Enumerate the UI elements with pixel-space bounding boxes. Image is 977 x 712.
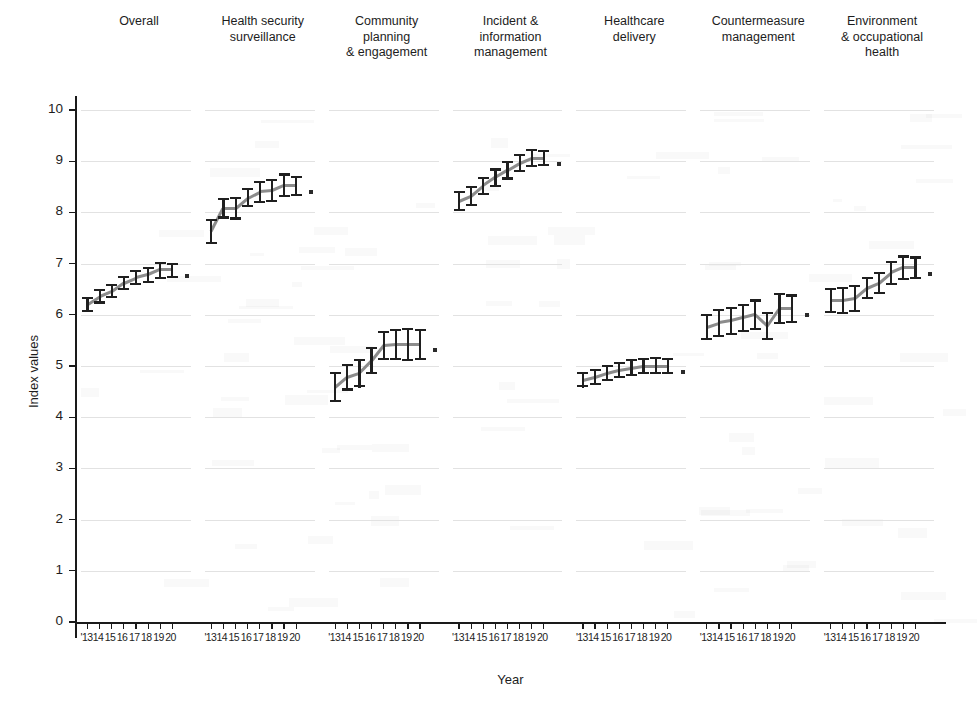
panel-title-incident-information-management: Incident & information management bbox=[443, 14, 579, 61]
error-bar-cap-top bbox=[774, 293, 785, 295]
series-end-marker bbox=[309, 190, 313, 194]
x-tick-label: 15 bbox=[229, 631, 239, 643]
x-tick-label: 16 bbox=[365, 631, 375, 643]
x-tick-mark bbox=[619, 622, 620, 629]
error-bar-cap-top bbox=[218, 198, 229, 200]
x-tick-label: 20 bbox=[537, 631, 547, 643]
error-bar-cap-bottom bbox=[354, 385, 365, 387]
error-bar bbox=[395, 329, 397, 360]
gridline bbox=[576, 571, 686, 572]
x-tick-mark bbox=[507, 622, 508, 629]
error-bar-cap-top bbox=[825, 288, 836, 290]
error-bar-cap-top bbox=[230, 197, 241, 199]
error-bar-cap-bottom bbox=[786, 321, 797, 323]
error-bar bbox=[842, 287, 844, 314]
gridline bbox=[453, 520, 563, 521]
error-bar bbox=[407, 328, 409, 361]
gridline bbox=[453, 417, 563, 418]
error-bar-cap-top bbox=[402, 328, 413, 330]
y-tick-label: 6 bbox=[39, 306, 63, 321]
y-tick-mark bbox=[69, 212, 77, 213]
error-bar-cap-bottom bbox=[266, 200, 277, 202]
x-tick-label: 17 bbox=[501, 631, 511, 643]
paper-artifact bbox=[250, 253, 264, 256]
error-bar-cap-top bbox=[266, 179, 277, 181]
error-bar-cap-top bbox=[82, 297, 93, 299]
y-tick-mark bbox=[69, 570, 77, 571]
y-tick-mark bbox=[69, 161, 77, 162]
paper-artifact bbox=[345, 248, 377, 255]
error-bar-cap-bottom bbox=[762, 338, 773, 340]
x-tick-mark bbox=[235, 622, 236, 629]
error-bar-cap-top bbox=[130, 270, 141, 272]
paper-artifact bbox=[548, 227, 595, 236]
x-tick-mark bbox=[842, 622, 843, 629]
gridline bbox=[205, 520, 315, 521]
error-bar bbox=[902, 255, 904, 280]
x-tick-label: 16 bbox=[860, 631, 870, 643]
error-bar-cap-bottom bbox=[874, 292, 885, 294]
error-bar bbox=[830, 288, 832, 313]
x-tick-mark bbox=[247, 622, 248, 629]
error-bar-cap-top bbox=[342, 364, 353, 366]
error-bar bbox=[235, 197, 237, 220]
error-bar-cap-top bbox=[837, 287, 848, 289]
paper-artifact bbox=[159, 230, 204, 237]
paper-artifact bbox=[261, 120, 314, 123]
error-bar-cap-top bbox=[886, 261, 897, 263]
x-tick-label: 17 bbox=[748, 631, 758, 643]
paper-artifact bbox=[81, 388, 99, 398]
paper-artifact bbox=[746, 509, 783, 513]
error-bar-cap-top bbox=[590, 369, 601, 371]
x-tick-label: 18 bbox=[637, 631, 647, 643]
x-tick-label: 14 bbox=[93, 631, 103, 643]
y-tick-label: 0 bbox=[39, 613, 63, 628]
error-bar-cap-bottom bbox=[898, 278, 909, 280]
gridline bbox=[329, 161, 439, 162]
x-tick-label: 20 bbox=[289, 631, 299, 643]
x-tick-label: 15 bbox=[848, 631, 858, 643]
gridline bbox=[453, 468, 563, 469]
error-bar-cap-top bbox=[291, 176, 302, 178]
y-tick-label: 3 bbox=[39, 459, 63, 474]
paper-artifact bbox=[299, 247, 335, 253]
error-bar bbox=[778, 293, 780, 324]
error-bar-cap-bottom bbox=[526, 165, 537, 167]
error-bar-cap-bottom bbox=[614, 376, 625, 378]
error-bar bbox=[346, 364, 348, 391]
gridline bbox=[824, 571, 934, 572]
x-tick-mark bbox=[483, 622, 484, 629]
error-bar-cap-bottom bbox=[291, 194, 302, 196]
error-bar bbox=[866, 277, 868, 300]
error-bar bbox=[718, 309, 720, 338]
series-end-marker bbox=[805, 313, 809, 317]
gridline bbox=[453, 571, 563, 572]
x-tick-mark bbox=[891, 622, 892, 629]
paper-artifact bbox=[212, 460, 254, 466]
x-tick-mark bbox=[335, 622, 336, 629]
gridline bbox=[81, 161, 191, 162]
paper-artifact bbox=[539, 301, 560, 306]
gridline bbox=[329, 417, 439, 418]
error-bar bbox=[914, 256, 916, 279]
error-bar-cap-top bbox=[526, 149, 537, 151]
error-bar-cap-top bbox=[242, 188, 253, 190]
error-bar-cap-top bbox=[662, 358, 673, 360]
y-tick-mark bbox=[69, 365, 77, 366]
error-bar-cap-bottom bbox=[342, 388, 353, 390]
x-tick-mark bbox=[347, 622, 348, 629]
paper-artifact bbox=[488, 236, 537, 245]
error-bar-cap-top bbox=[390, 329, 401, 331]
error-bar-cap-top bbox=[762, 312, 773, 314]
gridline bbox=[576, 468, 686, 469]
error-bar-cap-top bbox=[466, 186, 477, 188]
error-bar-cap-top bbox=[786, 294, 797, 296]
x-tick-mark bbox=[706, 622, 707, 629]
y-tick-label: 9 bbox=[39, 152, 63, 167]
x-tick-label: 16 bbox=[488, 631, 498, 643]
x-tick-label: 14 bbox=[216, 631, 226, 643]
gridline bbox=[329, 520, 439, 521]
error-bar bbox=[791, 294, 793, 323]
paper-artifact bbox=[369, 491, 379, 499]
x-tick-mark bbox=[223, 622, 224, 629]
